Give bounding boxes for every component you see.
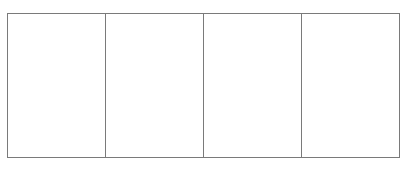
- panel-3: [204, 14, 302, 157]
- panel-grid-frame: [7, 13, 400, 158]
- panel-1: [8, 14, 106, 157]
- panel-4: [302, 14, 399, 157]
- panel-2: [106, 14, 204, 157]
